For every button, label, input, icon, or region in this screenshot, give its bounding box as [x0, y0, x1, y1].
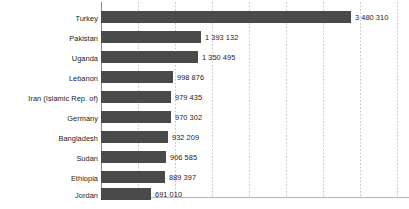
category-label-uganda: Uganda: [0, 55, 98, 62]
horizontal-bar-chart: Turkey Pakistan Uganda Lebanon Iran (Isl…: [0, 0, 409, 209]
category-label-sudan: Sudan: [0, 155, 98, 162]
bar-value-turkey: 3 480 310: [355, 14, 388, 21]
category-label-lebanon: Lebanon: [0, 75, 98, 82]
bar-value-pakistan: 1 393 132: [205, 34, 238, 41]
bar-pakistan: [101, 31, 201, 43]
category-label-ethiopia: Ethiopia: [0, 175, 98, 182]
bar-iran: [101, 91, 171, 103]
bar-turkey: [101, 11, 351, 23]
bar-value-ethiopia: 889 397: [169, 174, 196, 181]
bar-value-lebanon: 998 876: [177, 74, 204, 81]
category-label-turkey: Turkey: [0, 15, 98, 22]
bar-germany: [101, 111, 171, 123]
bar-sudan: [101, 151, 166, 163]
bar-ethiopia: [101, 171, 165, 183]
gridline-5: [286, 2, 287, 197]
bar-value-jordan: 691 010: [155, 191, 182, 198]
bar-value-uganda: 1 350 495: [202, 54, 235, 61]
gridline-6: [323, 2, 324, 197]
bar-value-iran: 979 435: [175, 94, 202, 101]
bar-bangladesh: [101, 131, 168, 143]
category-label-column: Turkey Pakistan Uganda Lebanon Iran (Isl…: [0, 0, 98, 209]
bar-lebanon: [101, 71, 173, 83]
plot-area: 3 480 310 1 393 132 1 350 495 998 876 97…: [101, 0, 409, 209]
category-label-jordan: Jordan: [0, 192, 98, 199]
gridline-7: [360, 2, 361, 197]
category-label-germany: Germany: [0, 115, 98, 122]
gridline-8: [397, 2, 398, 197]
gridline-4: [249, 2, 250, 197]
gridline-3: [212, 2, 213, 197]
category-label-pakistan: Pakistan: [0, 35, 98, 42]
bar-value-sudan: 906 585: [170, 154, 197, 161]
bar-value-bangladesh: 932 209: [172, 134, 199, 141]
bar-value-germany: 970 302: [175, 114, 202, 121]
category-label-iran: Iran (Islamic Rep. of): [0, 95, 98, 102]
bar-uganda: [101, 51, 198, 63]
bar-jordan: [101, 188, 151, 200]
category-label-bangladesh: Bangladesh: [0, 135, 98, 142]
